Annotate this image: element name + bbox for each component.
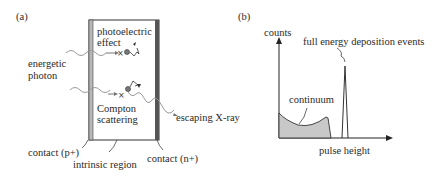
label-contact-n: contact (n+) (147, 153, 198, 164)
label-effect: effect (97, 37, 121, 48)
label-pulse-height: pulse height (319, 145, 370, 156)
svg-text:×: × (117, 49, 124, 58)
continuum-area (279, 113, 331, 138)
contact-p-layer (89, 20, 93, 140)
label-photoelectric: photoelectric (97, 26, 152, 37)
panel-a-tag: (a) (16, 11, 28, 22)
label-compton: Compton (97, 103, 136, 114)
label-contact-p: contact (p+) (28, 147, 79, 158)
label-photon: photon (28, 70, 57, 81)
full-energy-peak (342, 66, 348, 138)
panel-b-tag: (b) (238, 11, 250, 22)
label-continuum: continuum (289, 94, 334, 105)
label-escaping-xray: escaping X-ray (176, 112, 240, 123)
svg-text:×: × (118, 91, 125, 100)
label-scattering: scattering (97, 114, 138, 125)
label-intrinsic-region: intrinsic region (73, 159, 137, 170)
label-full-energy: full energy deposition events (303, 36, 424, 47)
label-counts: counts (264, 27, 291, 38)
contact-n-layer (155, 20, 159, 140)
label-energetic: energetic (28, 58, 66, 69)
